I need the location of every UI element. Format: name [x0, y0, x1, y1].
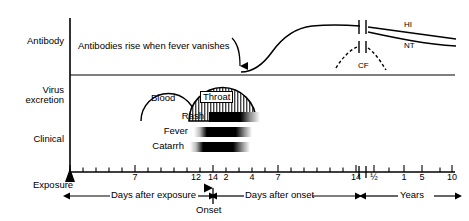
axis-caption-days-after-onset: Days after onset	[245, 190, 314, 200]
antibody-break-mark-hi	[359, 20, 366, 34]
xtick-onset-7: 7	[270, 173, 286, 182]
clinical-bar-fever	[194, 127, 252, 137]
antibody-break-mark-cf	[359, 41, 366, 53]
virus-arc-label-blood: Blood	[151, 93, 175, 103]
axis-label-exposure: Exposure	[33, 180, 73, 190]
xtick-exposure-12: 12	[188, 173, 204, 182]
axis-caption-days-after-exposure: Days after exposure	[111, 190, 196, 200]
xtick-onset-2: 2	[218, 173, 234, 182]
antibody-label-hi: HI	[404, 21, 412, 29]
x-ticks-years	[374, 165, 452, 172]
x-ticks-days-after-exposure	[70, 165, 213, 172]
xtick-exposure-7: 7	[127, 173, 143, 182]
axis-label-onset: Onset	[196, 205, 221, 215]
xtick-years-1: 1	[396, 173, 412, 182]
xtick-years-5: 5	[414, 173, 430, 182]
axis-caption-years: Years	[400, 190, 424, 200]
x-ticks-days-after-onset	[226, 165, 356, 172]
row-label-virus-excretion-line2: excretion	[2, 95, 64, 105]
xtick-years-half: ½	[366, 173, 382, 182]
antibody-label-cf: CF	[358, 62, 369, 70]
row-label-clinical: Clinical	[2, 134, 64, 144]
virus-arc-label-throat: Throat	[200, 91, 233, 103]
clinical-bar-catarrh	[190, 142, 250, 152]
xtick-years-10: 10	[444, 173, 460, 182]
clinical-bar-rash	[209, 112, 260, 122]
antibody-curve-hi	[241, 25, 456, 72]
row-label-antibody: Antibody	[2, 36, 64, 46]
annotation-text: Antibodies rise when fever vanishes	[78, 41, 230, 51]
clinical-label-rash: Rash	[140, 111, 204, 121]
antibody-label-nt: NT	[404, 42, 415, 50]
annotation-arrow-icon	[232, 38, 240, 66]
clinical-label-fever: Fever	[130, 126, 188, 136]
measles-timeline-figure: Antibody Virus excretion Clinical Antibo…	[0, 0, 469, 221]
xtick-onset-14: 14	[348, 173, 364, 182]
xtick-onset-4: 4	[244, 173, 260, 182]
clinical-label-catarrh: Catarrh	[120, 141, 184, 151]
